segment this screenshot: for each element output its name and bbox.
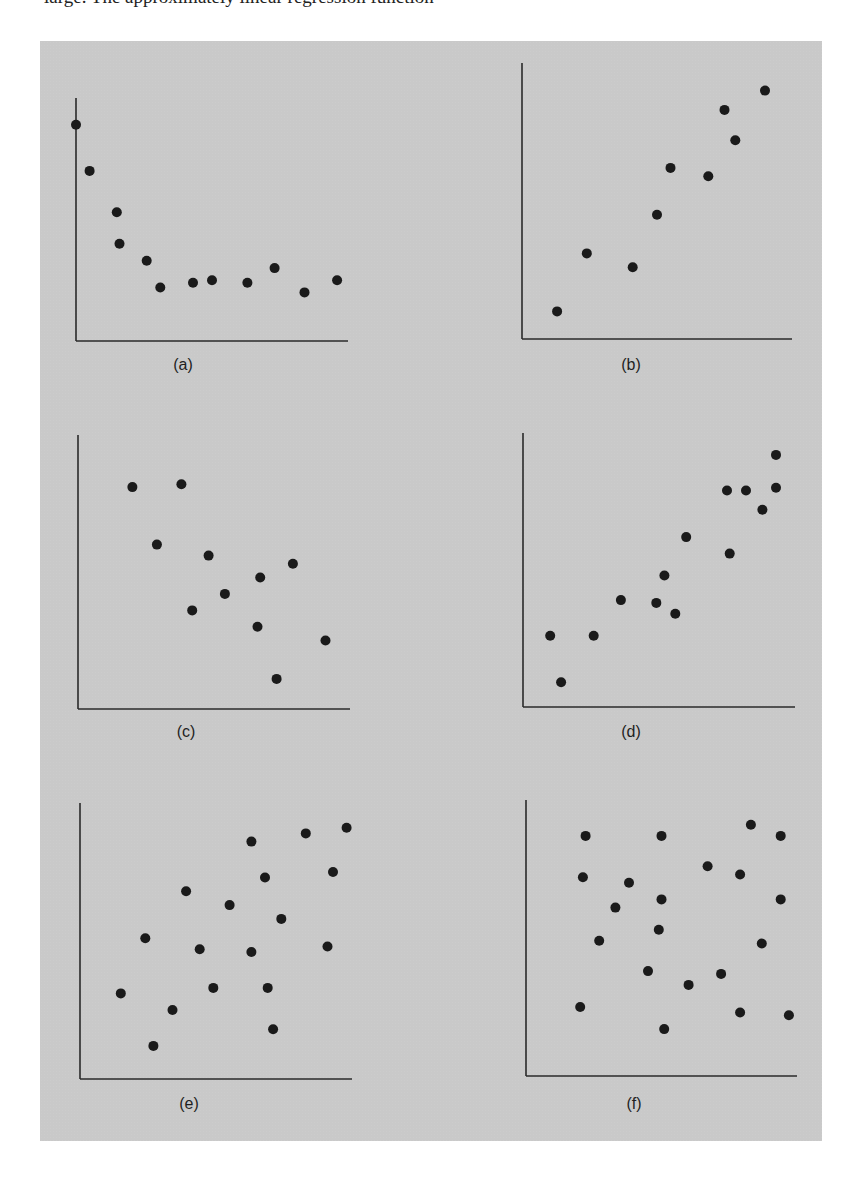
data-point [300, 287, 310, 297]
data-point [276, 914, 286, 924]
data-point [246, 837, 256, 847]
data-point [757, 505, 767, 515]
data-point [703, 861, 713, 871]
data-point [225, 900, 235, 910]
scatter-plot-f [526, 800, 797, 1076]
data-point [168, 1005, 178, 1015]
data-point [181, 886, 191, 896]
panel-label-a: (a) [153, 356, 213, 374]
data-point [556, 677, 566, 687]
data-point [115, 239, 125, 249]
data-point [268, 1024, 278, 1034]
data-point [725, 549, 735, 559]
data-point [654, 925, 664, 935]
data-point [741, 486, 751, 496]
page-bottom-margin [40, 1148, 820, 1183]
data-point [643, 966, 653, 976]
scatter-canvas [80, 803, 352, 1079]
data-point [263, 983, 273, 993]
data-point [176, 479, 186, 489]
data-point [323, 942, 333, 952]
data-point [71, 120, 81, 130]
data-point [140, 933, 150, 943]
data-point [771, 450, 781, 460]
data-point [272, 674, 282, 684]
data-point [301, 828, 311, 838]
data-point [116, 988, 126, 998]
data-point [288, 559, 298, 569]
data-point [253, 622, 263, 632]
panel-label-f: (f) [604, 1095, 664, 1113]
data-point [582, 248, 592, 258]
data-point [575, 1002, 585, 1012]
data-point [659, 571, 669, 581]
scatter-plot-e [80, 803, 352, 1079]
data-point [730, 135, 740, 145]
data-point [681, 532, 691, 542]
data-point [757, 939, 767, 949]
data-point [735, 1008, 745, 1018]
data-point [148, 1041, 158, 1051]
panel-label-e: (e) [159, 1095, 219, 1113]
data-point [589, 631, 599, 641]
data-point [670, 609, 680, 619]
data-point [204, 551, 214, 561]
data-point [628, 262, 638, 272]
data-point [652, 210, 662, 220]
data-point [552, 306, 562, 316]
data-point [784, 1010, 794, 1020]
scatter-plot-d [523, 433, 795, 707]
data-point [112, 207, 122, 217]
data-point [260, 873, 270, 883]
data-point [187, 605, 197, 615]
data-point [735, 870, 745, 880]
scatter-plot-b [522, 63, 792, 339]
data-point [242, 278, 252, 288]
data-point [610, 903, 620, 913]
data-point [722, 486, 732, 496]
data-point [594, 936, 604, 946]
data-point [716, 969, 726, 979]
data-point [651, 598, 661, 608]
panel-label-b: (b) [601, 356, 661, 374]
data-point [332, 275, 342, 285]
data-point [659, 1024, 669, 1034]
scatter-canvas [78, 435, 350, 709]
data-point [220, 589, 230, 599]
scatter-plot-c [78, 435, 350, 709]
data-point [776, 831, 786, 841]
data-point [127, 482, 137, 492]
data-point [684, 980, 694, 990]
page-text-fragment: large. The approximately linear regressi… [44, 0, 824, 10]
data-point [657, 831, 667, 841]
data-point [581, 831, 591, 841]
data-point [666, 163, 676, 173]
data-point [270, 263, 280, 273]
data-point [657, 894, 667, 904]
data-point [771, 483, 781, 493]
scatter-canvas [526, 800, 797, 1076]
data-point [578, 872, 588, 882]
data-point [208, 983, 218, 993]
scatter-canvas [523, 433, 795, 707]
scatter-plot-a [76, 98, 348, 341]
data-point [152, 540, 162, 550]
data-point [188, 278, 198, 288]
data-point [142, 256, 152, 266]
data-point [207, 275, 217, 285]
data-point [246, 947, 256, 957]
data-point [195, 944, 205, 954]
data-point [255, 573, 265, 583]
data-point [720, 105, 730, 115]
data-point [545, 631, 555, 641]
scatter-canvas [522, 63, 792, 339]
panel-label-c: (c) [156, 723, 216, 741]
data-point [342, 823, 352, 833]
data-point [624, 878, 634, 888]
data-point [328, 867, 338, 877]
data-point [85, 166, 95, 176]
data-point [155, 283, 165, 293]
data-point [616, 595, 626, 605]
data-point [703, 171, 713, 181]
scatter-canvas [76, 98, 348, 341]
